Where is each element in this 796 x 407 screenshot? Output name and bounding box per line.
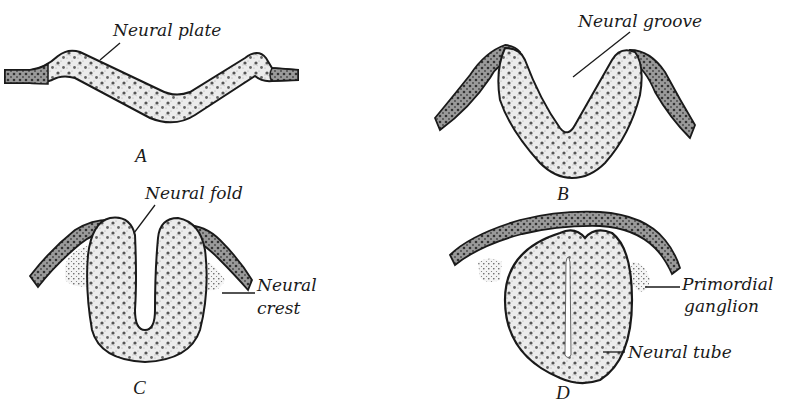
label-neural-crest-line1: Neural — [257, 277, 317, 294]
label-primordial-ganglion-line2: ganglion — [684, 298, 759, 315]
label-primordial-ganglion-line1: Primordial — [682, 276, 773, 293]
label-neural-crest-line2: crest — [257, 300, 300, 317]
label-neural-fold: Neural fold — [145, 185, 243, 202]
label-neural-groove: Neural groove — [578, 13, 702, 30]
neural-tube-formation-figure: Neural plate Neural groove Neural fold N… — [0, 0, 796, 407]
panel-letter-a: A — [135, 146, 147, 165]
label-neural-tube: Neural tube — [628, 344, 732, 361]
panel-b-drawing — [435, 32, 695, 178]
panel-a-drawing — [5, 43, 298, 122]
panel-letter-b: B — [557, 184, 569, 203]
label-neural-plate: Neural plate — [113, 22, 221, 39]
panel-c-drawing — [30, 205, 255, 362]
panel-letter-d: D — [556, 383, 570, 402]
panel-letter-c: C — [133, 378, 146, 397]
